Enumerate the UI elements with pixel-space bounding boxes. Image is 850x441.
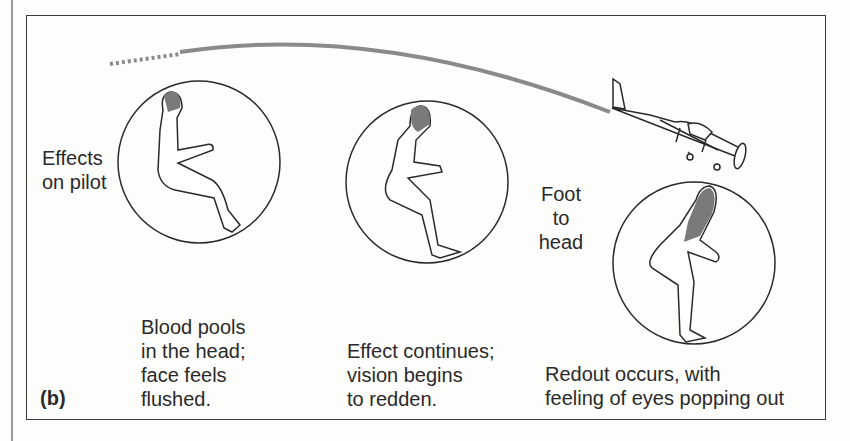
flight-path-trail — [110, 45, 610, 113]
foot-to-head-label: Foot to head — [536, 182, 586, 254]
panel-label: (b) — [40, 386, 66, 410]
pilot-figure-stage-2 — [346, 101, 508, 263]
stage-1-caption: Blood pools in the head; face feels flus… — [141, 315, 246, 411]
stage-3-caption: Redout occurs, with feeling of eyes popp… — [545, 362, 784, 410]
airplane-icon — [612, 79, 748, 170]
stage-2-caption: Effect continues; vision begins to redde… — [347, 339, 495, 411]
pilot-figure-stage-1 — [118, 81, 280, 243]
effects-on-pilot-label: Effects on pilot — [42, 146, 107, 194]
pilot-figure-stage-3 — [613, 182, 775, 344]
